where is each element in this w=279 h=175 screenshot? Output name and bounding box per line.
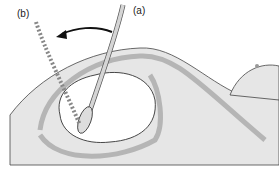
breast: [230, 65, 279, 100]
label-a: (a): [133, 5, 145, 16]
label-b: (b): [17, 8, 29, 19]
arrow: [62, 28, 112, 34]
arrowhead: [56, 30, 67, 39]
illustration: [0, 0, 279, 175]
nipple: [255, 64, 259, 68]
